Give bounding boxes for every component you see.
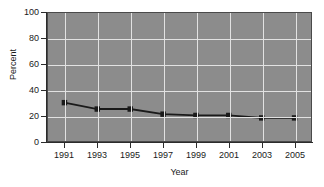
x-axis-tick bbox=[64, 143, 65, 148]
x-axis-tick bbox=[130, 143, 131, 148]
x-axis-tick bbox=[196, 143, 197, 148]
line-chart-figure: 020406080100 199119931995199719992001200… bbox=[0, 0, 324, 187]
y-axis-tick-label: 0 bbox=[15, 138, 39, 147]
gridline-vertical bbox=[65, 13, 66, 141]
gridline-vertical bbox=[197, 13, 198, 141]
gridline-horizontal bbox=[48, 39, 311, 40]
y-axis-tick-label: 80 bbox=[15, 34, 39, 43]
gridline-horizontal bbox=[48, 65, 311, 66]
gridline-vertical bbox=[230, 13, 231, 141]
gridline-vertical bbox=[98, 13, 99, 141]
x-axis-tick-label: 1993 bbox=[80, 151, 114, 160]
x-axis-tick bbox=[229, 143, 230, 148]
x-axis-tick-label: 1995 bbox=[113, 151, 147, 160]
x-axis-tick-label: 2003 bbox=[245, 151, 279, 160]
y-axis-tick bbox=[41, 38, 46, 39]
y-axis-title: Percent bbox=[9, 35, 18, 95]
x-axis-tick-label: 2005 bbox=[278, 151, 312, 160]
y-axis-tick bbox=[41, 90, 46, 91]
gridline-vertical bbox=[263, 13, 264, 141]
x-axis-tick-label: 1999 bbox=[179, 151, 213, 160]
x-axis-title: Year bbox=[47, 168, 312, 177]
gridline-vertical bbox=[131, 13, 132, 141]
y-axis-tick-label: 60 bbox=[15, 60, 39, 69]
y-axis-tick-label: 40 bbox=[15, 86, 39, 95]
y-axis-tick bbox=[41, 116, 46, 117]
y-axis-tick bbox=[41, 64, 46, 65]
x-axis-tick bbox=[97, 143, 98, 148]
x-axis-tick-label: 1997 bbox=[146, 151, 180, 160]
y-axis-tick-label: 100 bbox=[15, 8, 39, 17]
x-axis-tick bbox=[163, 143, 164, 148]
gridline-vertical bbox=[164, 13, 165, 141]
series-line-and-markers bbox=[48, 13, 311, 141]
y-axis-tick bbox=[41, 12, 46, 13]
y-axis-line bbox=[46, 12, 47, 143]
y-axis-tick-label: 20 bbox=[15, 112, 39, 121]
x-axis-tick-label: 1991 bbox=[47, 151, 81, 160]
gridline-vertical bbox=[296, 13, 297, 141]
plot-area bbox=[47, 12, 312, 142]
x-axis-line bbox=[46, 142, 313, 143]
gridline-horizontal bbox=[48, 117, 311, 118]
y-axis-tick bbox=[41, 142, 46, 143]
x-axis-tick-label: 2001 bbox=[212, 151, 246, 160]
x-axis-tick bbox=[295, 143, 296, 148]
gridline-horizontal bbox=[48, 91, 311, 92]
x-axis-tick bbox=[262, 143, 263, 148]
